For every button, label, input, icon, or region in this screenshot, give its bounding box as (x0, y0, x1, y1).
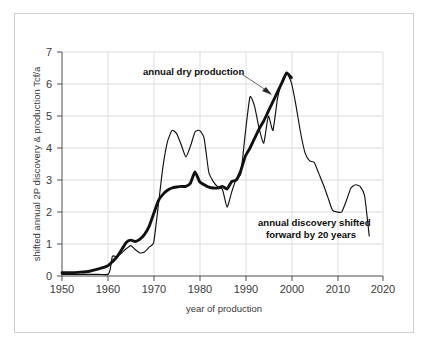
y-axis-title: shifted annual 2P discovery & production… (31, 66, 42, 261)
chart-figure: 7 6 5 4 3 2 1 0 1950 1960 1970 1980 1990… (0, 0, 428, 348)
y-tick-label-2: 2 (46, 206, 52, 218)
x-tick-label-1960: 1960 (96, 283, 120, 295)
y-tick-label-5: 5 (46, 110, 52, 122)
y-tick-marks (57, 52, 62, 276)
x-tick-marks (62, 276, 383, 281)
x-tick-label-2010: 2010 (326, 283, 350, 295)
y-tick-label-1: 1 (46, 238, 52, 250)
y-tick-label-6: 6 (46, 78, 52, 90)
x-tick-label-1980: 1980 (188, 283, 212, 295)
annual-discovery-label-line2: forward by 20 years (266, 229, 356, 240)
annotation-annual-discovery: annual discovery shifted forward by 20 y… (258, 217, 371, 240)
x-tick-label-1950: 1950 (50, 283, 74, 295)
x-tick-label-2020: 2020 (371, 283, 395, 295)
y-gridlines (62, 52, 383, 244)
annual-discovery-label-line1: annual discovery shifted (258, 217, 371, 228)
x-axis-title: year of production (186, 303, 262, 314)
y-tick-label-3: 3 (46, 174, 52, 186)
x-tick-label-1970: 1970 (142, 283, 166, 295)
annual-dry-production-label: annual dry production (143, 66, 244, 77)
x-gridlines (108, 52, 383, 276)
x-tick-label-2000: 2000 (280, 283, 304, 295)
x-tick-labels: 1950 1960 1970 1980 1990 2000 2010 2020 (50, 283, 395, 295)
series-annual-dry-production (62, 73, 291, 273)
y-tick-label-0: 0 (46, 270, 52, 282)
y-tick-label-4: 4 (46, 142, 52, 154)
y-tick-label-7: 7 (46, 46, 52, 58)
chart-canvas: 7 6 5 4 3 2 1 0 1950 1960 1970 1980 1990… (0, 0, 428, 348)
x-tick-label-1990: 1990 (234, 283, 258, 295)
y-tick-labels: 7 6 5 4 3 2 1 0 (46, 46, 52, 282)
annotation-annual-dry-production: annual dry production (143, 66, 272, 95)
